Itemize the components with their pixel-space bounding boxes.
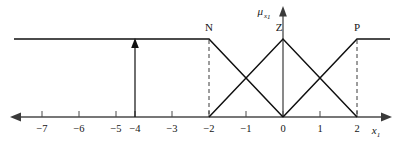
- set-label-Z: Z: [276, 21, 283, 33]
- membership-curve-N-path: [14, 39, 283, 117]
- x-axis-ticks: [42, 111, 357, 117]
- tick-label--7: −7: [36, 123, 47, 134]
- mu-subscript-1: 1: [267, 13, 271, 21]
- tick-label-0: 0: [280, 123, 285, 134]
- mu-axis-arrowhead: [279, 6, 287, 17]
- set-label-N: N: [205, 21, 213, 33]
- tick-label--1: −1: [240, 123, 251, 134]
- membership-curve-P-path: [283, 39, 390, 117]
- membership-curve-P: P: [283, 21, 390, 117]
- membership-function-plot: −7 −6 −5 −4 −3 −2 −1 0 1 2 x1 μx1 N: [0, 0, 400, 143]
- tick-label-1: 1: [317, 123, 322, 134]
- tick-label--6: −6: [73, 123, 84, 134]
- membership-curve-N: N: [14, 21, 283, 117]
- tick-label--3: −3: [166, 123, 177, 134]
- fuzzy-membership-figure: −7 −6 −5 −4 −3 −2 −1 0 1 2 x1 μx1 N: [0, 0, 400, 143]
- mu-symbol: μ: [256, 5, 263, 17]
- tick-label--4: −4: [129, 123, 141, 134]
- x-axis-right-arrowhead: [381, 113, 392, 122]
- mu-axis-label-text: μx1: [256, 5, 270, 21]
- x-axis-label-subscript: 1: [377, 131, 381, 139]
- set-label-P: P: [354, 21, 360, 33]
- x-axis-left-arrowhead: [10, 113, 21, 122]
- x-axis-label: x1: [371, 124, 380, 139]
- tick-label--5: −5: [110, 123, 121, 134]
- x-axis-group: [10, 113, 392, 122]
- x-axis-tick-labels: −7 −6 −5 −4 −3 −2 −1 0 1 2: [36, 123, 359, 134]
- tick-label-2: 2: [354, 123, 359, 134]
- input-value-arrow: [131, 38, 139, 117]
- tick-label--2: −2: [203, 123, 214, 134]
- x-axis-label-text: x1: [371, 124, 380, 139]
